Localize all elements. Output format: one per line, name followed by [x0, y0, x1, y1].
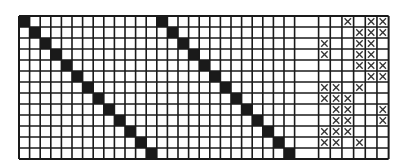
filled-cell: [220, 82, 231, 93]
x-mark-icon: [333, 84, 339, 90]
x-mark-icon: [380, 29, 386, 35]
filled-cell: [125, 126, 136, 137]
filled-cell: [210, 71, 221, 82]
x-mark-icon: [333, 95, 339, 101]
filled-cell: [114, 115, 125, 126]
filled-cell: [19, 16, 30, 27]
x-mark-icon: [345, 95, 351, 101]
filled-cell: [136, 137, 147, 148]
x-mark-icon: [356, 139, 362, 145]
x-mark-icon: [333, 106, 339, 112]
x-mark-icon: [321, 40, 327, 46]
x-mark-icon: [345, 128, 351, 134]
grid-pattern-diagram: [18, 15, 390, 160]
filled-cell: [51, 49, 62, 60]
x-mark-icon: [368, 40, 374, 46]
x-mark-icon: [356, 40, 362, 46]
filled-cell: [242, 104, 253, 115]
x-mark-icon: [356, 51, 362, 57]
filled-cell: [157, 16, 168, 27]
filled-cell: [61, 60, 72, 71]
filled-cell: [178, 38, 189, 49]
filled-cell: [30, 27, 41, 38]
x-mark-icon: [356, 62, 362, 68]
filled-cell: [252, 115, 263, 126]
x-mark-icon: [321, 139, 327, 145]
filled-cell: [273, 137, 284, 148]
x-mark-icon: [345, 117, 351, 123]
x-mark-icon: [345, 18, 351, 24]
filled-cell: [284, 148, 295, 159]
x-mark-icon: [380, 106, 386, 112]
filled-cell: [167, 27, 178, 38]
x-mark-icon: [380, 117, 386, 123]
grid-svg: [18, 15, 390, 160]
x-mark-icon: [368, 29, 374, 35]
x-mark-icon: [380, 18, 386, 24]
x-mark-icon: [333, 117, 339, 123]
filled-cell: [40, 38, 51, 49]
filled-cell: [263, 126, 274, 137]
x-mark-icon: [356, 29, 362, 35]
x-mark-icon: [321, 95, 327, 101]
x-mark-icon: [380, 73, 386, 79]
x-mark-icon: [368, 51, 374, 57]
filled-cell: [231, 93, 242, 104]
filled-cell: [189, 49, 200, 60]
x-mark-icon: [356, 84, 362, 90]
x-mark-icon: [380, 62, 386, 68]
filled-cell: [104, 104, 115, 115]
filled-cell: [93, 93, 104, 104]
x-mark-icon: [321, 128, 327, 134]
x-mark-icon: [321, 84, 327, 90]
x-mark-icon: [333, 128, 339, 134]
x-mark-icon: [368, 73, 374, 79]
x-mark-icon: [368, 18, 374, 24]
x-mark-icon: [368, 62, 374, 68]
filled-cell: [72, 71, 83, 82]
filled-cell: [83, 82, 94, 93]
x-mark-icon: [321, 51, 327, 57]
filled-cell: [199, 60, 210, 71]
x-mark-icon: [345, 106, 351, 112]
filled-cell: [146, 148, 157, 159]
x-mark-icon: [333, 139, 339, 145]
